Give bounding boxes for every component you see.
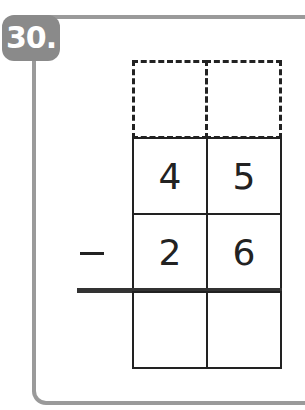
answer-ones[interactable]: [206, 291, 282, 369]
subtrahend-tens: 2: [132, 213, 208, 291]
carry-cell-ones[interactable]: [205, 60, 282, 139]
carry-cell-tens[interactable]: [132, 60, 208, 139]
answer-tens[interactable]: [132, 291, 208, 369]
subtrahend-ones: 6: [206, 213, 282, 291]
minuend-tens: 4: [132, 137, 208, 215]
minuend-ones: 5: [206, 137, 282, 215]
problem-number-badge: 30.: [2, 15, 60, 61]
minus-sign: [80, 252, 104, 255]
